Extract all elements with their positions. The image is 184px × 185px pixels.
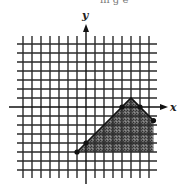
point-marker bbox=[74, 149, 79, 154]
point-marker bbox=[119, 104, 124, 109]
point-marker bbox=[137, 104, 142, 109]
point-marker bbox=[151, 118, 156, 123]
x-axis-label: x bbox=[169, 101, 177, 114]
x-axis-arrow-icon bbox=[160, 104, 168, 110]
point-marker bbox=[83, 140, 88, 145]
axes bbox=[9, 24, 168, 184]
y-axis-label: y bbox=[81, 9, 90, 22]
y-axis-arrow-icon bbox=[83, 24, 89, 32]
coordinate-graph: x y bbox=[0, 0, 184, 185]
